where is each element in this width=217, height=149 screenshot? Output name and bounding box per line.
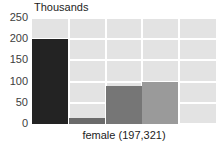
- y-tick-label: 200: [0, 33, 28, 44]
- y-axis-unit-title: Thousands: [34, 1, 88, 14]
- y-tick-label: 0: [0, 118, 28, 129]
- x-axis-caption: female (197,321): [32, 129, 216, 142]
- y-tick-label: 150: [0, 54, 28, 65]
- y-tick-label: 50: [0, 97, 28, 108]
- y-tick-label: 250: [0, 12, 28, 23]
- y-tick-label: 100: [0, 76, 28, 87]
- bar-chart-figure: Thousands 250200150100500 female (197,32…: [0, 0, 217, 149]
- y-axis-ticks: 250200150100500: [0, 18, 217, 124]
